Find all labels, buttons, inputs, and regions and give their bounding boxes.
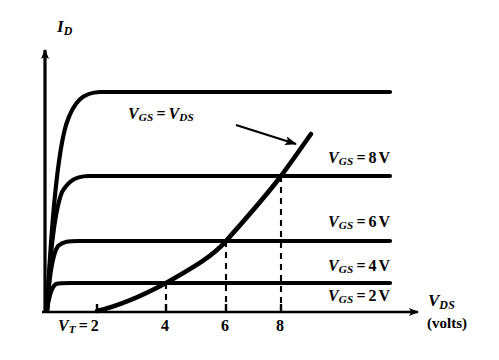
x-axis-label-sub: DS (439, 298, 455, 312)
curve-label-vgs-8v: VGS=8V (328, 150, 390, 168)
curve-label-vgs-4v: VGS=4V (328, 258, 390, 276)
tick-label-8: 8 (276, 318, 284, 334)
curve-label-vgs-2v: VGS=2V (328, 288, 390, 306)
curve-label-6v-sub: GS (339, 219, 354, 231)
y-axis-label-var: I (57, 17, 64, 36)
threshold-label-value: 2 (91, 317, 99, 334)
curve-label-2v-var: V (328, 287, 339, 304)
tick-label-4: 4 (161, 318, 169, 334)
threshold-label-sub: T (69, 323, 76, 335)
curve-label-2v-sub: GS (339, 293, 354, 305)
threshold-voltage-label: VT=2 (58, 318, 99, 336)
locus-label-left-sub: GS (139, 111, 154, 123)
curve-label-6v-operator: = (353, 213, 368, 230)
y-axis-label: ID (57, 18, 72, 38)
curve-label-8v-value: 8 (369, 149, 377, 166)
locus-label-right-var: V (169, 105, 180, 122)
locus-label: VGS=VDS (128, 106, 194, 124)
threshold-label-var: V (58, 317, 69, 334)
locus-label-left-var: V (128, 105, 139, 122)
curve-label-vgs-6v: VGS=6V (328, 214, 390, 232)
locus-label-operator: = (153, 105, 168, 122)
curve-label-4v-value: 4 (369, 257, 377, 274)
x-axis-label: VDS (428, 292, 455, 312)
curve-label-4v-operator: = (353, 257, 368, 274)
curve-label-2v-operator: = (353, 287, 368, 304)
y-axis-label-sub: D (64, 24, 73, 38)
plot-canvas (0, 0, 499, 360)
curve-label-6v-unit: V (377, 213, 391, 230)
locus-annotation-arrow (236, 125, 296, 144)
curve-label-6v-value: 6 (369, 213, 377, 230)
curve-label-4v-unit: V (377, 257, 391, 274)
x-axis-units-label: (volts) (427, 316, 467, 331)
curve-label-4v-sub: GS (339, 263, 354, 275)
curve-label-2v-unit: V (377, 287, 391, 304)
tick-label-6: 6 (221, 318, 229, 334)
curve-label-8v-operator: = (353, 149, 368, 166)
curve-vgs-8v (47, 92, 390, 311)
curve-label-8v-unit: V (377, 149, 391, 166)
mosfet-output-characteristics-figure: ID VDS (volts) VGS=VDS VGS=8V VGS=6V VGS… (0, 0, 499, 360)
curve-label-6v-var: V (328, 213, 339, 230)
locus-label-right-sub: DS (179, 111, 194, 123)
x-axis-label-var: V (428, 291, 439, 310)
threshold-label-operator: = (76, 317, 91, 334)
curve-label-4v-var: V (328, 257, 339, 274)
curve-label-2v-value: 2 (369, 287, 377, 304)
curve-label-8v-sub: GS (339, 155, 354, 167)
curve-label-8v-var: V (328, 149, 339, 166)
